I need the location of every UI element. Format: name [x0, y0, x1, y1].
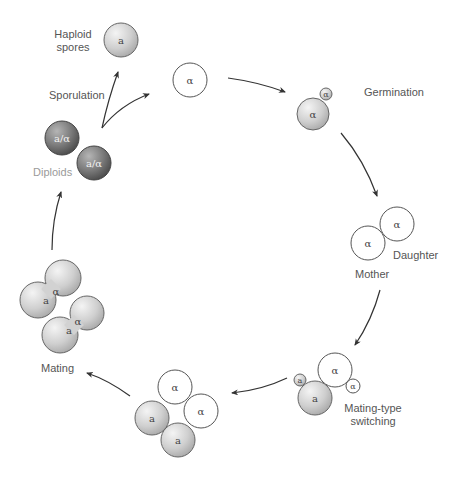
svg-text:a: a	[149, 413, 155, 424]
svg-text:a: a	[118, 35, 124, 46]
germinating-cell: α α	[297, 88, 332, 130]
mother-label: Mother	[355, 268, 389, 281]
arrow-to-mixed-cells	[232, 378, 287, 393]
germination-arrow	[341, 133, 377, 196]
svg-text:a: a	[312, 393, 318, 404]
haploid-spores-label-line1: Haploid	[48, 28, 98, 41]
arrow-to-diploids	[52, 192, 61, 250]
haploid-spores-label-line2: spores	[48, 41, 98, 54]
svg-text:α: α	[365, 238, 372, 249]
svg-text:α: α	[53, 286, 60, 297]
haploid-spores-label: Haploid spores	[48, 28, 98, 54]
svg-text:α: α	[332, 365, 339, 376]
svg-text:α: α	[350, 382, 356, 391]
svg-text:a/α: a/α	[86, 158, 102, 169]
svg-text:α: α	[75, 316, 82, 327]
sporulation-arrows	[102, 72, 149, 128]
svg-text:α: α	[172, 382, 179, 393]
arrow-to-mating	[87, 373, 130, 396]
mating-label: Mating	[41, 362, 74, 375]
haploid-spore-alpha: α	[173, 63, 207, 97]
diploids-label: Diploids	[33, 166, 72, 179]
svg-text:a: a	[175, 435, 181, 446]
arrow-to-switching	[355, 290, 380, 345]
mating-type-switching-label: Mating-type switching	[333, 402, 413, 428]
mating-type-switching-line2: switching	[333, 415, 413, 428]
svg-text:a: a	[43, 295, 49, 306]
svg-text:a: a	[66, 325, 72, 336]
svg-text:α: α	[323, 90, 329, 99]
svg-text:α: α	[310, 109, 317, 120]
svg-text:α: α	[394, 219, 401, 230]
svg-text:α: α	[198, 406, 205, 417]
svg-text:α: α	[187, 75, 194, 86]
arrow-to-germination	[228, 78, 285, 92]
daughter-label: Daughter	[393, 249, 438, 262]
mating-type-switching-line1: Mating-type	[333, 402, 413, 415]
haploid-spore-a: a	[104, 23, 138, 57]
mating-cells: a α a α	[20, 260, 104, 353]
germination-label: Germination	[364, 86, 424, 99]
mixed-cells: α α a a	[135, 370, 218, 457]
svg-text:a: a	[298, 376, 303, 385]
svg-text:a/α: a/α	[54, 133, 70, 144]
sporulation-label: Sporulation	[49, 89, 105, 102]
